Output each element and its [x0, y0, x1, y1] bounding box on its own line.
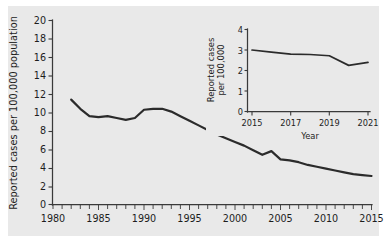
y-tick-label: 4	[40, 162, 46, 173]
inset-y-axis-title-line2: per 100,000	[216, 44, 226, 95]
inset-chart-group: Reported cases per 100,000 4 3 2 1 0	[206, 18, 378, 141]
inset-y-tick-label: 4	[238, 25, 243, 35]
x-tick-label: 2005	[268, 213, 292, 224]
x-tick-label: 1980	[41, 213, 65, 224]
inset-x-tick-label: 2019	[319, 118, 340, 128]
main-x-tick-labels: 1980 1985 1990 1995 2000 2005 2010 2015	[41, 213, 384, 224]
y-tick-label: 8	[40, 125, 46, 136]
inset-y-tick-label: 2	[238, 66, 243, 76]
inset-x-tick-label: 2015	[242, 118, 263, 128]
y-tick-label: 2	[40, 181, 46, 192]
inset-y-tick-label: 0	[238, 107, 243, 117]
main-y-tick-labels: 20 18 16 14 12 10 8 6 4 2 0	[34, 15, 46, 210]
x-tick-label: 1995	[177, 213, 201, 224]
y-tick-label: 14	[34, 70, 46, 81]
y-tick-label: 16	[34, 52, 46, 63]
inset-x-tick-label: 2017	[280, 118, 301, 128]
y-tick-label: 12	[34, 89, 46, 100]
inset-x-axis-title: Year	[300, 131, 319, 141]
main-x-minor-ticks	[53, 205, 372, 211]
y-tick-label: 20	[34, 15, 46, 26]
main-y-axis-title: Reported cases per 100,000 population	[8, 16, 19, 210]
y-tick-label: 10	[34, 107, 46, 118]
x-tick-label: 1985	[86, 213, 110, 224]
y-tick-label: 6	[40, 144, 46, 155]
inset-y-tick-label: 1	[238, 87, 243, 97]
chart-figure: Reported cases per 100,000 population 20…	[0, 0, 387, 244]
x-tick-label: 2010	[314, 213, 338, 224]
line-chart: Reported cases per 100,000 population 20…	[0, 0, 387, 244]
y-tick-label: 0	[40, 199, 46, 210]
inset-x-tick-label: 2021	[358, 118, 379, 128]
inset-y-tick-label: 3	[238, 46, 243, 56]
x-tick-label: 2015	[359, 213, 383, 224]
x-tick-label: 1990	[132, 213, 156, 224]
x-tick-label: 2000	[223, 213, 247, 224]
inset-y-axis-title-line1: Reported cases	[206, 38, 216, 103]
y-tick-label: 18	[34, 33, 46, 44]
